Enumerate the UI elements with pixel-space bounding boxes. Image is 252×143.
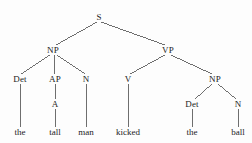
tree-terminal-w-ball: ball <box>230 128 246 137</box>
tree-terminal-w-man: man <box>77 128 95 137</box>
tree-edge <box>56 22 97 45</box>
tree-edge <box>195 84 212 99</box>
tree-node-a: A <box>51 100 60 109</box>
tree-node-s: S <box>95 13 102 22</box>
tree-node-np1: NP <box>46 46 60 55</box>
tree-node-n1: N <box>82 75 91 84</box>
tree-edge <box>21 55 50 74</box>
tree-edge <box>171 55 212 74</box>
tree-terminal-w-the2: the <box>186 128 199 137</box>
tree-edge <box>218 84 236 99</box>
tree-node-det1: Det <box>12 75 28 84</box>
tree-node-vp: VP <box>161 46 175 55</box>
tree-terminal-w-kicked: kicked <box>115 128 141 137</box>
tree-node-n2: N <box>234 100 243 109</box>
tree-terminal-w-the1: the <box>14 128 27 137</box>
tree-node-det2: Det <box>184 100 200 109</box>
tree-terminal-w-tall: tall <box>48 128 62 137</box>
syntax-tree-figure: SNPVPDetAPNVNPADetN thetallmankickedtheb… <box>0 0 252 143</box>
tree-edge <box>57 55 85 74</box>
tree-edge <box>130 55 165 74</box>
tree-node-ap: AP <box>48 75 62 84</box>
tree-node-v: V <box>124 75 133 84</box>
tree-edge <box>54 55 55 74</box>
tree-edge <box>101 22 165 45</box>
tree-node-np2: NP <box>208 75 222 84</box>
tree-edges-canvas <box>0 0 252 143</box>
